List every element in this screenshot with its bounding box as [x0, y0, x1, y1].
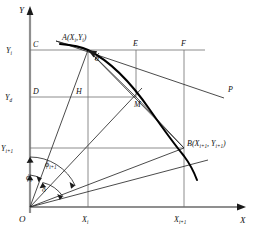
- y-tick-labels: Yi Yd Yi+1: [1, 46, 13, 154]
- construction-lines: [30, 50, 205, 207]
- ray-O-delta-terminal: [30, 160, 208, 207]
- axes-group: [27, 6, 246, 213]
- ray-O-to-M: [30, 88, 142, 207]
- x-tick-xi: Xi: [81, 215, 89, 225]
- trajectory-curve-group: [60, 44, 197, 180]
- y-tick-yd: Yd: [5, 93, 12, 103]
- ray-O-to-A: [30, 50, 88, 207]
- angle-labels: ϕi ϕi+1 δ α: [26, 54, 100, 194]
- point-label-A: A(Xi,Yi): [61, 33, 87, 43]
- point-label-B: B(Xi+1, Yi+1): [187, 139, 226, 149]
- trajectory-curve: [60, 44, 197, 180]
- angle-label-phi-i: ϕi: [26, 173, 32, 183]
- arc-phi-i-plus-1: [30, 157, 75, 186]
- x-tick-labels: Xi Xi+1: [81, 215, 187, 225]
- x-tick-xi1: Xi+1: [173, 215, 187, 225]
- angle-label-delta: δ: [42, 185, 46, 194]
- arc-phi-i1-arrowhead-start: [27, 157, 34, 163]
- point-label-E: E: [132, 39, 138, 48]
- y-tick-yi: Yi: [6, 46, 12, 56]
- y-axis-label: Y: [19, 5, 25, 15]
- geometry-figure: Y X O Yi Yd Yi+1 Xi Xi+1 A(Xi,Yi) B(Xi+1…: [0, 0, 255, 233]
- origin-label: O: [19, 214, 26, 224]
- axis-labels: Y X O: [19, 5, 246, 225]
- ray-O-to-B: [30, 148, 184, 207]
- x-axis-arrowhead: [237, 204, 246, 211]
- point-label-C: C: [33, 40, 39, 49]
- y-tick-yi1: Yi+1: [1, 144, 13, 154]
- point-label-P: P: [227, 85, 233, 94]
- diagram-canvas: Y X O Yi Yd Yi+1 Xi Xi+1 A(Xi,Yi) B(Xi+1…: [0, 0, 255, 233]
- point-label-H: H: [75, 87, 83, 96]
- point-label-F: F: [180, 39, 186, 48]
- x-axis-label: X: [239, 215, 246, 225]
- point-label-D: D: [32, 87, 39, 96]
- y-axis-arrowhead: [27, 6, 34, 15]
- point-label-M: M: [133, 100, 142, 109]
- arc-phi-i1-arrowhead-end: [70, 182, 76, 189]
